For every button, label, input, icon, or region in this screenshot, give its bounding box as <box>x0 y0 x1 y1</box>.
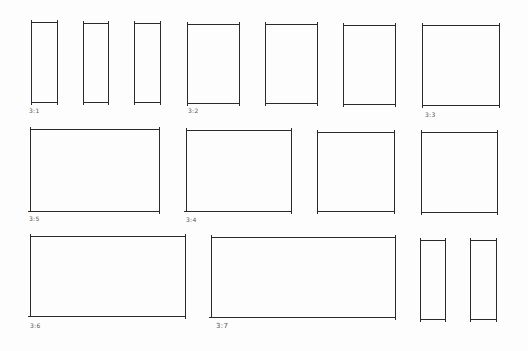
frame-3-7 <box>211 237 396 318</box>
corner-tick <box>445 238 446 243</box>
corner-tick <box>265 22 266 27</box>
corner-tick <box>108 21 109 26</box>
frame-3-1-d <box>420 240 446 320</box>
corner-tick <box>211 235 212 240</box>
corner-tick <box>317 101 318 106</box>
corner-tick <box>445 317 446 322</box>
frame-3-4-b <box>317 132 395 212</box>
corner-tick <box>496 238 497 243</box>
corner-tick <box>239 22 240 27</box>
corner-tick <box>496 317 497 322</box>
corner-tick <box>134 100 135 105</box>
corner-tick <box>291 209 292 214</box>
corner-tick <box>186 128 187 133</box>
corner-tick <box>317 22 318 27</box>
frame-3-4-a <box>186 130 292 212</box>
ratio-label-3-5: 3:5 <box>29 215 40 222</box>
frame-3-1-a <box>31 22 58 103</box>
corner-tick <box>83 21 84 26</box>
ratio-label-3-6: 3:6 <box>30 322 41 329</box>
corner-tick <box>209 317 214 318</box>
corner-tick <box>187 101 188 106</box>
corner-tick <box>470 238 471 243</box>
corner-tick <box>134 21 135 26</box>
corner-tick <box>159 209 160 214</box>
frame-3-2-c <box>343 25 396 105</box>
sketch-sheet: 3:1 3:2 3:3 <box>0 0 528 351</box>
frame-3-5 <box>30 129 160 212</box>
frame-3-6 <box>30 236 186 317</box>
corner-tick <box>265 101 266 106</box>
corner-tick <box>420 238 421 243</box>
corner-tick <box>30 234 31 239</box>
corner-tick <box>422 23 423 28</box>
corner-tick <box>30 127 31 132</box>
corner-tick <box>470 317 471 322</box>
corner-tick <box>395 315 396 320</box>
frame-3-1-c <box>134 23 161 103</box>
corner-tick <box>57 100 58 105</box>
frame-3-1-e <box>470 240 497 320</box>
corner-tick <box>160 21 161 26</box>
corner-tick <box>343 102 344 107</box>
corner-tick <box>394 209 395 214</box>
corner-tick <box>185 234 186 239</box>
frame-3-2-b <box>265 24 318 104</box>
corner-tick <box>317 209 318 214</box>
corner-tick <box>420 317 421 322</box>
corner-tick <box>499 103 500 108</box>
corner-tick <box>160 100 161 105</box>
corner-tick <box>57 20 58 25</box>
corner-tick <box>239 101 240 106</box>
frame-3-2-a <box>187 24 240 104</box>
corner-tick <box>343 23 344 28</box>
corner-tick <box>31 100 32 105</box>
frame-3-1-b <box>83 23 109 103</box>
corner-tick <box>394 130 395 135</box>
ratio-label-3-1: 3:1 <box>29 107 40 114</box>
ratio-label-3-7: 3:7 <box>216 322 228 330</box>
corner-tick <box>395 235 396 240</box>
corner-tick <box>421 210 422 215</box>
ratio-label-3-3: 3:3 <box>425 111 436 118</box>
corner-tick <box>499 23 500 28</box>
corner-tick <box>291 128 292 133</box>
ratio-label-3-4: 3:4 <box>186 216 197 223</box>
corner-tick <box>108 100 109 105</box>
corner-tick <box>421 130 422 135</box>
corner-tick <box>395 23 396 28</box>
corner-tick <box>31 20 32 25</box>
corner-tick <box>28 211 33 212</box>
frame-3-3 <box>422 25 500 106</box>
corner-tick <box>185 314 186 319</box>
corner-tick <box>28 316 33 317</box>
frame-3-4-c <box>421 132 498 213</box>
ratio-label-3-2: 3:2 <box>188 107 199 114</box>
corner-tick <box>83 100 84 105</box>
corner-tick <box>395 102 396 107</box>
corner-tick <box>187 22 188 27</box>
corner-tick <box>422 103 423 108</box>
corner-tick <box>497 210 498 215</box>
corner-tick <box>159 127 160 132</box>
corner-tick <box>497 130 498 135</box>
corner-tick <box>184 211 189 212</box>
corner-tick <box>317 130 318 135</box>
